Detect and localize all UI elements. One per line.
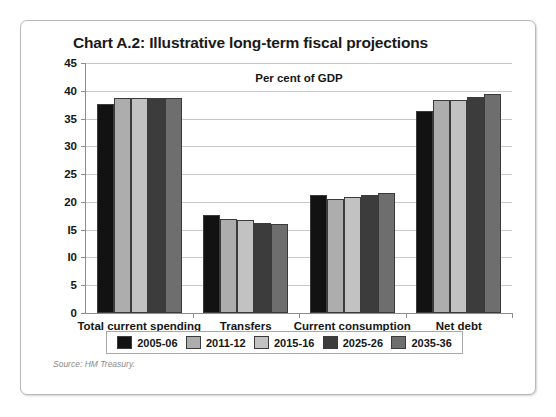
bar-group-bars	[406, 63, 513, 313]
legend-swatch-icon	[391, 336, 406, 349]
y-tick-label-5: 5	[71, 279, 77, 291]
bar-group: Transfers	[193, 63, 300, 313]
bar[interactable]	[484, 94, 501, 313]
y-tick-label-40: 40	[64, 85, 77, 97]
legend-label: 2035-36	[411, 337, 451, 349]
bar[interactable]	[433, 100, 450, 313]
bar[interactable]	[97, 104, 114, 313]
y-tick-label-30: 30	[64, 140, 77, 152]
y-tick-label-25: 25	[64, 168, 77, 180]
legend-item[interactable]: 2015-16	[254, 336, 314, 349]
bar[interactable]	[467, 97, 484, 313]
bar[interactable]	[114, 98, 131, 313]
y-tick-label-15: I5	[67, 224, 77, 236]
bar-group-bars	[193, 63, 300, 313]
bar[interactable]	[310, 195, 327, 313]
legend-label: 2011-12	[206, 337, 246, 349]
legend-label: 2005-06	[137, 337, 177, 349]
bar[interactable]	[361, 195, 378, 313]
bar[interactable]	[165, 98, 182, 313]
bar-group-bars	[299, 63, 406, 313]
x-tick-mark	[193, 313, 194, 318]
bar[interactable]	[254, 223, 271, 313]
bar[interactable]	[203, 215, 220, 313]
x-tick-mark	[406, 313, 407, 318]
y-tick-label-20: 20	[64, 196, 77, 208]
bar[interactable]	[220, 219, 237, 313]
bar[interactable]	[131, 98, 148, 313]
bar-group-bars	[86, 63, 193, 313]
bar[interactable]	[344, 197, 361, 313]
bar[interactable]	[271, 224, 288, 313]
legend-item[interactable]: 2025-26	[323, 336, 383, 349]
bar[interactable]	[450, 100, 467, 313]
legend-swatch-icon	[254, 336, 269, 349]
y-tick-label-0: 0	[71, 307, 77, 319]
bar-group: Total current spending	[86, 63, 193, 313]
bar[interactable]	[148, 98, 165, 313]
y-tick-label-35: 35	[64, 113, 77, 125]
chart-title: Chart A.2: Illustrative long-term fiscal…	[73, 34, 428, 52]
y-tick-label-45: 45	[64, 57, 77, 69]
x-tick-mark	[299, 313, 300, 318]
legend-swatch-icon	[117, 336, 132, 349]
bar[interactable]	[378, 193, 395, 313]
chart-legend: 2005-062011-122015-162025-262035-36	[106, 331, 463, 354]
plot-area: Per cent of GDP 05I0I5202530354045 Total…	[85, 63, 512, 314]
legend-item[interactable]: 2005-06	[117, 336, 177, 349]
y-tick-label-10: I0	[67, 251, 77, 263]
bar[interactable]	[327, 199, 344, 313]
legend-swatch-icon	[186, 336, 201, 349]
chart-figure: Chart A.2: Illustrative long-term fiscal…	[20, 20, 536, 395]
x-tick-mark	[512, 313, 513, 318]
source-note: Source: HM Treasury.	[53, 359, 135, 369]
bar[interactable]	[416, 111, 433, 313]
legend-label: 2015-16	[274, 337, 314, 349]
y-tick-mark-0	[81, 313, 86, 314]
legend-label: 2025-26	[343, 337, 383, 349]
legend-swatch-icon	[323, 336, 338, 349]
legend-item[interactable]: 2011-12	[186, 336, 246, 349]
legend-item[interactable]: 2035-36	[391, 336, 451, 349]
bar[interactable]	[237, 220, 254, 313]
bar-group: Current consumption	[299, 63, 406, 313]
bar-group: Net debt	[406, 63, 513, 313]
